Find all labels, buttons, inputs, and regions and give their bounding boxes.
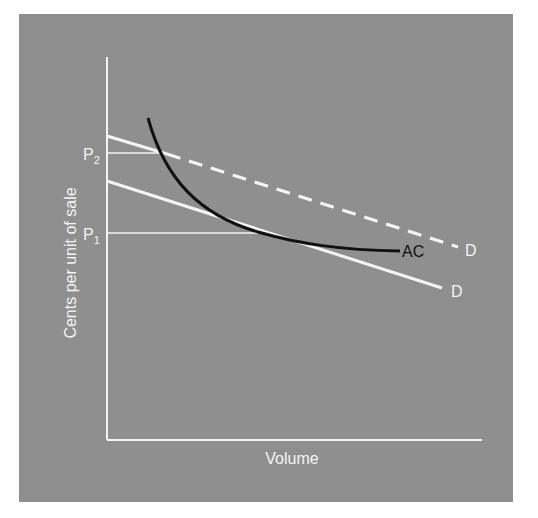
demand-lower-label: D [451,283,463,300]
p2-label: P2 [83,146,100,166]
demand-upper-label: D [465,242,477,259]
ac-label: AC [402,243,424,260]
y-axis-label: Cents per unit of sale [62,187,79,338]
average-cost-curve [148,118,400,251]
demand-lower-line [107,181,442,288]
p1-label: P1 [83,226,100,246]
demand-cost-diagram: P2 P1 AC D D Volume Cents per unit of sa… [0,0,538,518]
x-axis-label: Volume [265,450,318,467]
